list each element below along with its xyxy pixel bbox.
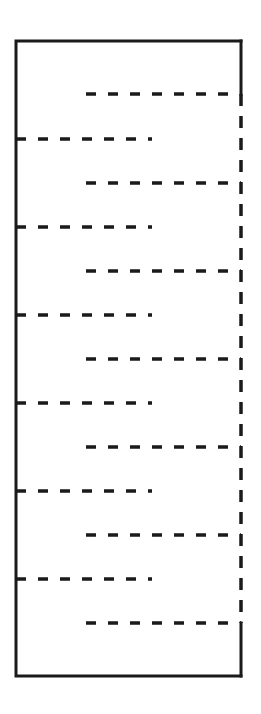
right-dashed-rungs — [86, 94, 241, 623]
diagram-canvas — [0, 0, 261, 714]
